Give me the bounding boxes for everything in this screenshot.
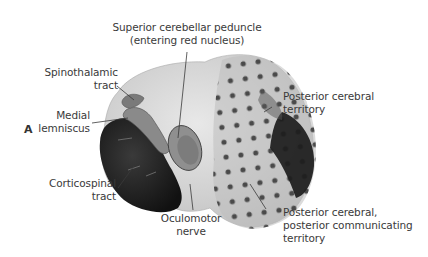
label-oculomotor-nerve: Oculomotor nerve bbox=[156, 212, 226, 238]
panel-letter: A bbox=[24, 123, 33, 136]
label-spinothalamic-tract: Spinothalamic tract bbox=[30, 66, 118, 92]
label-superior-cerebellar-peduncle: Superior cerebellar peduncle (entering r… bbox=[112, 21, 262, 47]
label-corticospinal-tract: Corticospinal tract bbox=[30, 177, 116, 203]
label-posterior-cerebral-territory: Posterior cerebral territory bbox=[283, 90, 374, 116]
label-medial-lemniscus: Medial lemniscus bbox=[30, 109, 90, 135]
label-posterior-cerebral-communicating-territory: Posterior cerebral, posterior communicat… bbox=[283, 206, 413, 245]
midbrain-cross-section-figure: Superior cerebellar peduncle (entering r… bbox=[0, 0, 428, 257]
